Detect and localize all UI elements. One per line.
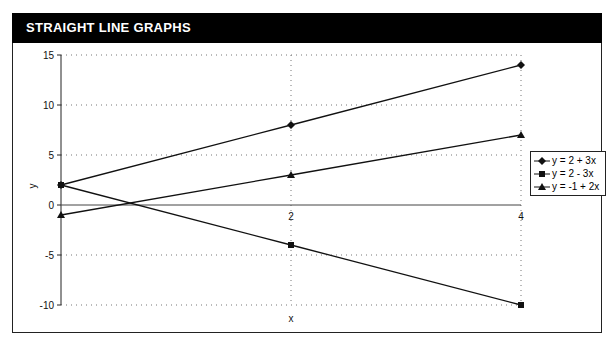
y-tick-labels: 15 10 5 0 -5 -10 <box>40 50 55 311</box>
svg-text:15: 15 <box>43 50 55 61</box>
svg-text:5: 5 <box>48 150 54 161</box>
x-tick-2: 2 <box>288 211 294 222</box>
svg-text:-5: -5 <box>45 250 54 261</box>
triangle-marker-icon <box>534 183 550 191</box>
legend-item: y = -1 + 2x <box>534 180 602 193</box>
svg-text:-10: -10 <box>40 300 55 311</box>
svg-text:10: 10 <box>43 100 55 111</box>
square-marker-icon <box>534 170 550 178</box>
chart-plot: 15 10 5 0 -5 -10 2 4 x y <box>0 0 610 352</box>
gridlines <box>61 55 521 305</box>
x-tick-4: 4 <box>518 211 524 222</box>
x-axis-label: x <box>289 313 294 324</box>
chart-legend: y = 2 + 3x y = 2 - 3x y = -1 + 2x <box>530 151 606 196</box>
legend-item: y = 2 - 3x <box>534 167 602 180</box>
legend-item: y = 2 + 3x <box>534 154 602 167</box>
svg-text:0: 0 <box>48 200 54 211</box>
diamond-marker-icon <box>534 157 550 165</box>
y-axis-label: y <box>27 184 38 189</box>
